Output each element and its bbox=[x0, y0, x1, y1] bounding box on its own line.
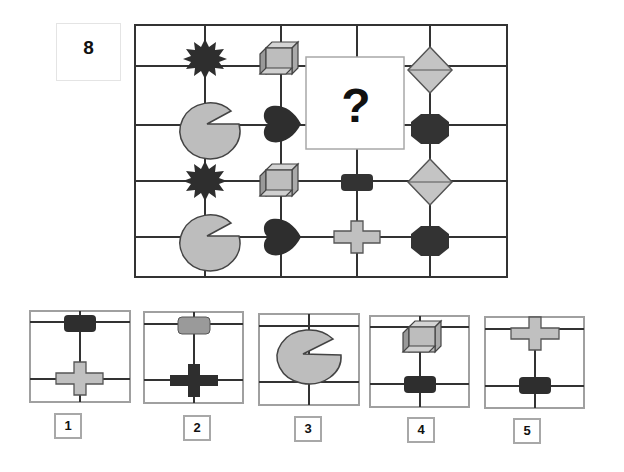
question-mark: ? bbox=[341, 79, 370, 132]
option-4-panel[interactable] bbox=[370, 316, 469, 407]
option-4-label-box[interactable]: 4 bbox=[407, 417, 435, 443]
option-5-panel[interactable] bbox=[485, 317, 584, 408]
option-2-panel[interactable] bbox=[144, 312, 243, 403]
rounded-rect-icon bbox=[341, 174, 373, 191]
octagon-icon bbox=[411, 226, 449, 256]
pacman-icon bbox=[277, 330, 341, 384]
option-5-label-box[interactable]: 5 bbox=[513, 418, 541, 444]
option-2-label: 2 bbox=[193, 420, 200, 435]
rounded-rect-icon bbox=[404, 376, 436, 393]
option-1-panel[interactable] bbox=[30, 311, 130, 402]
option-3-label-box[interactable]: 3 bbox=[294, 416, 322, 442]
puzzle-matrix: ? bbox=[0, 0, 624, 472]
option-3-panel[interactable] bbox=[259, 314, 359, 405]
rounded-rect-icon bbox=[64, 315, 96, 332]
octagon-icon bbox=[411, 114, 449, 144]
pacman-icon bbox=[180, 103, 240, 159]
rounded-rect-icon bbox=[519, 377, 551, 394]
option-1-label: 1 bbox=[64, 418, 71, 433]
option-4-label: 4 bbox=[417, 422, 424, 437]
option-3-label: 3 bbox=[304, 421, 311, 436]
option-1-label-box[interactable]: 1 bbox=[54, 413, 82, 439]
option-2-label-box[interactable]: 2 bbox=[183, 415, 211, 441]
rounded-rect-icon bbox=[178, 317, 210, 334]
pacman-icon bbox=[180, 215, 240, 271]
option-5-label: 5 bbox=[523, 423, 530, 438]
